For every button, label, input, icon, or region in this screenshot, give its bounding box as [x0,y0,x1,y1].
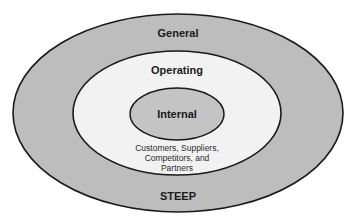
environment-diagram: General Operating Internal Customers, Su… [0,0,356,224]
operating-description-line-2: Competitors, and [145,153,210,163]
operating-label: Operating [151,64,203,76]
operating-description-line-3: Partners [161,163,193,173]
operating-description-line-1: Customers, Suppliers, [135,143,219,153]
internal-label: Internal [157,108,197,120]
general-label: General [158,27,199,39]
steep-label: STEEP [160,190,196,202]
